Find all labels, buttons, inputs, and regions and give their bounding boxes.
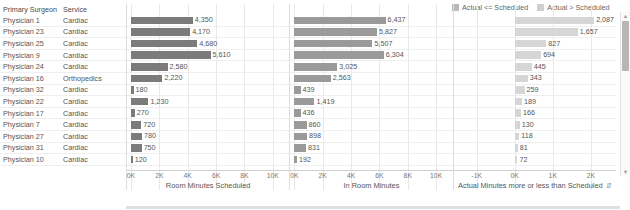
bar-row[interactable]: 1,419 [290, 96, 452, 108]
bar-row[interactable]: 180 [127, 85, 289, 97]
table-row[interactable]: Physician 25Cardiac [0, 38, 126, 50]
bar-row[interactable]: 750 [127, 143, 289, 155]
bar[interactable] [131, 40, 197, 48]
bar[interactable] [294, 98, 314, 106]
bar-row[interactable]: 270 [127, 108, 289, 120]
bar[interactable] [294, 86, 300, 94]
bar-row[interactable]: 694 [454, 50, 616, 62]
column-header-primary-surgeon[interactable]: Primary Surgeon [0, 4, 62, 15]
bar-row[interactable]: 439 [290, 85, 452, 97]
bar[interactable] [294, 109, 300, 117]
bar-row[interactable]: 2,220 [127, 73, 289, 85]
bar[interactable] [294, 51, 383, 59]
bar-row[interactable]: 189 [454, 96, 616, 108]
bar-row[interactable]: 2,563 [290, 73, 452, 85]
scroll-down-arrow-icon[interactable]: ▼ [621, 168, 630, 176]
table-row[interactable]: Physician 1Cardiac [0, 15, 126, 27]
table-row[interactable]: Physician 23Cardiac [0, 27, 126, 39]
bar[interactable] [131, 63, 168, 71]
bar-row[interactable]: 120 [127, 154, 289, 166]
bar[interactable] [131, 121, 141, 129]
bar[interactable] [515, 109, 521, 117]
table-row[interactable]: Physician 7Cardiac [0, 119, 126, 131]
table-row[interactable]: Physician 10Cardiac [0, 154, 126, 166]
bar-row[interactable]: 827 [454, 38, 616, 50]
bar-row[interactable]: 4,350 [127, 15, 289, 27]
scrollbar-thumb-horizontal[interactable] [126, 206, 620, 209]
table-row[interactable]: Physician 16Orthopedics [0, 73, 126, 85]
table-row[interactable]: Physician 9Cardiac [0, 50, 126, 62]
bar-row[interactable]: 720 [127, 119, 289, 131]
bar-row[interactable]: 343 [454, 73, 616, 85]
axis-title[interactable]: Actual Minutes more or less than Schedul… [454, 181, 616, 190]
horizontal-scrollbar[interactable] [0, 206, 620, 210]
bar-row[interactable]: 5,827 [290, 27, 452, 39]
bar-row[interactable]: 445 [454, 61, 616, 73]
bar[interactable] [515, 144, 518, 152]
bar[interactable] [131, 75, 162, 83]
bar-row[interactable]: 5,610 [127, 50, 289, 62]
bar-row[interactable]: 436 [290, 108, 452, 120]
bar[interactable] [131, 17, 193, 25]
sort-descending-icon[interactable]: ⇵ [606, 182, 612, 190]
bar[interactable] [294, 133, 307, 141]
bar-row[interactable]: 72 [454, 154, 616, 166]
bar-row[interactable]: 2,087 [454, 15, 616, 27]
bar-row[interactable]: 259 [454, 85, 616, 97]
table-row[interactable]: Physician 22Cardiac [0, 96, 126, 108]
bar[interactable] [131, 144, 142, 152]
bar[interactable] [294, 63, 337, 71]
table-row[interactable]: Physician 17Cardiac [0, 108, 126, 120]
bar[interactable] [515, 98, 522, 106]
bar[interactable] [131, 109, 135, 117]
bar-row[interactable]: 6,304 [290, 50, 452, 62]
axis-title[interactable]: Room Minutes Scheduled [127, 181, 289, 190]
bar[interactable] [515, 40, 546, 48]
bar[interactable] [131, 133, 142, 141]
bar[interactable] [515, 51, 541, 59]
bar-row[interactable]: 81 [454, 143, 616, 155]
bar-row[interactable]: 166 [454, 108, 616, 120]
bar[interactable] [131, 28, 190, 36]
bar[interactable] [294, 121, 306, 129]
column-header-service[interactable]: Service [62, 4, 87, 15]
bar[interactable] [131, 51, 211, 59]
bar-row[interactable]: 898 [290, 131, 452, 143]
bar[interactable] [515, 28, 578, 36]
bar-row[interactable]: 6,437 [290, 15, 452, 27]
table-row[interactable]: Physician 27Cardiac [0, 131, 126, 143]
bar[interactable] [515, 86, 525, 94]
bar-row[interactable]: 1,230 [127, 96, 289, 108]
bar[interactable] [294, 17, 385, 25]
bar[interactable] [515, 75, 528, 83]
bar-row[interactable]: 2,580 [127, 61, 289, 73]
bar-row[interactable]: 130 [454, 119, 616, 131]
bar[interactable] [515, 17, 594, 25]
bar[interactable] [131, 98, 148, 106]
vertical-scrollbar[interactable]: ▲ ▼ [620, 12, 630, 176]
bar-row[interactable]: 4,680 [127, 38, 289, 50]
scroll-up-arrow-icon[interactable]: ▲ [621, 12, 630, 20]
bar-row[interactable]: 192 [290, 154, 452, 166]
table-row[interactable]: Physician 24Cardiac [0, 61, 126, 73]
bar[interactable] [515, 121, 520, 129]
bar[interactable] [294, 40, 372, 48]
bar[interactable] [131, 156, 133, 164]
table-row[interactable]: Physician 32Cardiac [0, 85, 126, 97]
scrollbar-thumb[interactable] [622, 21, 629, 71]
bar[interactable] [515, 133, 519, 141]
bar[interactable] [294, 144, 306, 152]
bar-row[interactable]: 860 [290, 119, 452, 131]
bar[interactable] [515, 63, 532, 71]
bar-row[interactable]: 831 [290, 143, 452, 155]
bar-row[interactable]: 118 [454, 131, 616, 143]
axis-title[interactable]: In Room Minutes [290, 181, 452, 190]
bar-row[interactable]: 3,025 [290, 61, 452, 73]
table-row[interactable]: Physician 31Cardiac [0, 143, 126, 155]
bar[interactable] [294, 75, 330, 83]
bar-row[interactable]: 780 [127, 131, 289, 143]
bar-row[interactable]: 4,170 [127, 27, 289, 39]
bar[interactable] [131, 86, 134, 94]
bar[interactable] [294, 156, 297, 164]
bar-row[interactable]: 5,507 [290, 38, 452, 50]
